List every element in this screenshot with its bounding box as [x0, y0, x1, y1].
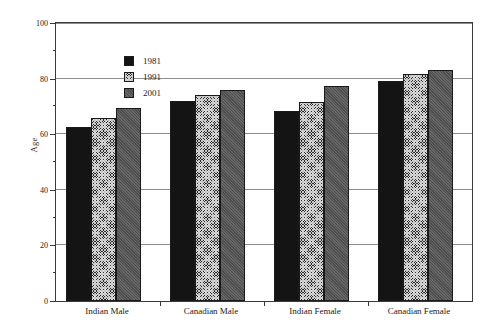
y-tick-label-60: 60 — [40, 130, 48, 139]
y-tick-40 — [50, 190, 56, 191]
bar-1981-canadian-female — [378, 81, 403, 301]
legend-item-1991: 1991 — [124, 69, 161, 85]
bar-2001-indian-female — [324, 86, 349, 301]
bar-1991-indian-male — [91, 118, 116, 301]
x-axis-label-canadian-male: Canadian Male — [184, 306, 239, 316]
y-tick-label-20: 20 — [40, 241, 48, 250]
legend-label-1981: 1981 — [143, 57, 161, 66]
x-tick-2 — [264, 301, 265, 306]
bar-chart-figure: Age 020406080100 198119912001 Indian Mal… — [0, 0, 495, 331]
x-axis-label-indian-female: Indian Female — [289, 306, 341, 316]
legend-swatch-2001 — [124, 88, 134, 98]
legend-swatch-1991 — [124, 72, 134, 82]
plot-area: 020406080100 198119912001 — [55, 22, 473, 302]
legend-label-1991: 1991 — [143, 73, 161, 82]
x-tick-3 — [368, 301, 369, 306]
bar-2001-canadian-male — [220, 90, 245, 301]
bar-1981-indian-male — [66, 127, 91, 301]
bar-2001-canadian-female — [428, 70, 453, 301]
bar-1981-indian-female — [274, 111, 299, 301]
y-tick-minor-30 — [53, 217, 56, 218]
y-tick-minor-50 — [53, 161, 56, 162]
y-tick-label-0: 0 — [44, 297, 48, 306]
y-tick-minor-70 — [53, 105, 56, 106]
y-tick-100 — [50, 23, 56, 24]
bar-1991-canadian-male — [195, 95, 220, 301]
x-axis-label-indian-male: Indian Male — [85, 306, 129, 316]
legend-label-2001: 2001 — [143, 89, 161, 98]
bar-1991-canadian-female — [403, 74, 428, 301]
y-tick-20 — [50, 245, 56, 246]
y-tick-60 — [50, 134, 56, 135]
legend-item-1981: 1981 — [124, 53, 161, 69]
y-tick-label-80: 80 — [40, 74, 48, 83]
chart-legend: 198119912001 — [124, 51, 161, 101]
y-tick-minor-90 — [53, 50, 56, 51]
bar-2001-indian-male — [116, 108, 141, 301]
y-tick-minor-10 — [53, 272, 56, 273]
legend-swatch-1981 — [124, 56, 134, 66]
y-tick-label-100: 100 — [36, 19, 48, 28]
x-axis-label-canadian-female: Canadian Female — [388, 306, 451, 316]
legend-item-2001: 2001 — [124, 85, 161, 101]
gridline-100 — [56, 23, 472, 24]
y-tick-0 — [50, 301, 56, 302]
y-tick-label-40: 40 — [40, 185, 48, 194]
y-tick-80 — [50, 79, 56, 80]
y-axis-title: Age — [29, 125, 39, 165]
bar-1981-canadian-male — [170, 101, 195, 301]
bar-1991-indian-female — [299, 102, 324, 301]
x-tick-1 — [160, 301, 161, 306]
